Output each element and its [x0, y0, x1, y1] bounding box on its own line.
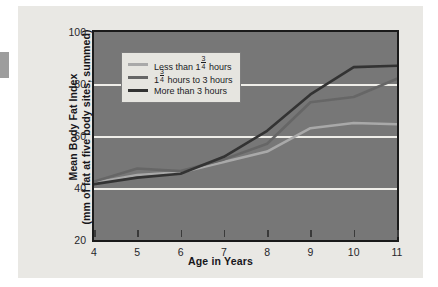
- legend-swatch-2: [128, 89, 148, 92]
- x-axis-title: Age in Years: [18, 255, 423, 267]
- chart-figure: Mean Body Fat Index (mm of fat at five b…: [18, 6, 423, 278]
- plot-inner: Less than 134 hours134 hours to 3 hoursM…: [94, 32, 397, 240]
- x-tick-mark-9: [310, 230, 312, 237]
- legend-item-2: More than 3 hours: [128, 84, 232, 97]
- x-tick-mark-7: [224, 230, 226, 237]
- legend-item-1: 134 hours to 3 hours: [128, 71, 232, 84]
- legend-fraction-1: 34: [160, 68, 165, 83]
- page-edge-tab: [0, 52, 9, 78]
- legend-label-2: More than 3 hours: [154, 85, 227, 97]
- legend-swatch-1: [128, 76, 148, 79]
- x-axis-tick-marks: [92, 230, 399, 242]
- plot-area: Less than 134 hours134 hours to 3 hoursM…: [92, 30, 399, 242]
- x-tick-mark-6: [181, 230, 183, 237]
- chart-legend: Less than 134 hours134 hours to 3 hoursM…: [121, 52, 241, 103]
- y-tick-label-40: 40: [54, 182, 86, 194]
- y-tick-label-20: 20: [54, 234, 86, 246]
- x-tick-mark-8: [267, 230, 269, 237]
- x-tick-mark-4: [94, 230, 96, 237]
- y-tick-label-100: 100: [54, 26, 86, 38]
- y-tick-label-60: 60: [54, 130, 86, 142]
- x-tick-mark-5: [137, 230, 139, 237]
- x-tick-mark-10: [354, 230, 356, 237]
- legend-swatch-0: [128, 63, 148, 66]
- x-tick-mark-11: [397, 230, 399, 237]
- y-tick-label-80: 80: [54, 78, 86, 90]
